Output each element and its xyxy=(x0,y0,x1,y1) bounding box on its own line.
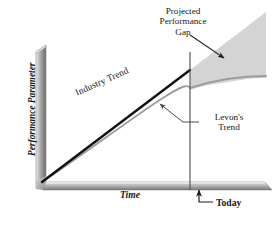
levons-trend-leader xyxy=(160,104,199,122)
projected-performance-gap-label: ProjectedPerformanceGap xyxy=(143,6,223,37)
performance-gap-chart: ProjectedPerformanceGap Levon'sTrend Ind… xyxy=(0,0,280,227)
y-axis-label: Performance Parameter xyxy=(27,41,38,177)
gap-label-line1: Projected xyxy=(166,6,201,16)
x-axis xyxy=(36,182,272,190)
gap-label-arrow xyxy=(190,35,224,58)
today-leader xyxy=(199,190,213,202)
today-label: Today xyxy=(216,198,241,209)
gap-label-line3: Gap xyxy=(175,27,190,37)
gap-label-line2: Performance xyxy=(160,16,207,26)
levons-trend-label: Levon'sTrend xyxy=(200,112,258,133)
x-axis-label: Time xyxy=(120,190,140,201)
industry-trend-line xyxy=(42,70,190,182)
levon-label-line1: Levon's xyxy=(215,112,244,122)
levon-label-line2: Trend xyxy=(218,122,240,132)
y-axis xyxy=(36,45,46,189)
